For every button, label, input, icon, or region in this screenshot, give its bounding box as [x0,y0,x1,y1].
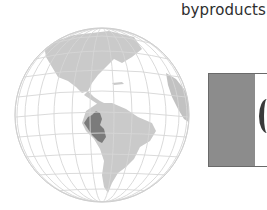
caption-text: byproducts. [181,1,267,19]
flag-red-band [209,74,255,166]
globe-icon [14,27,190,203]
globe-map [14,27,190,203]
flag-of-peru [208,73,267,167]
